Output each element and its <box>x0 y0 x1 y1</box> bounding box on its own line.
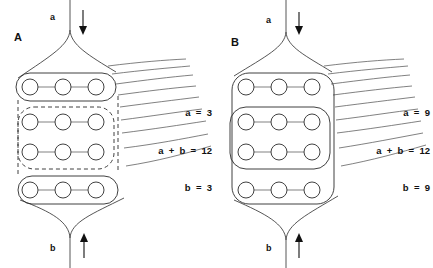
panel-b-row-connectors <box>246 87 312 190</box>
panel-b-up-arrow-icon <box>295 233 303 258</box>
panel-a-funnel-left <box>18 30 70 78</box>
figure-canvas: A a b a = 3 a + b = 12 b = 3 B a b a = 9… <box>0 0 433 268</box>
panel-a-bottom-label: b <box>50 243 56 253</box>
panel-a-row-connectors <box>30 87 96 190</box>
panel-b-bottom-right <box>286 196 338 240</box>
panel-a-top-label: a <box>50 12 55 22</box>
panel-a-up-arrow-icon <box>80 233 88 258</box>
panel-b-equation-2: a + b = 12 <box>348 145 430 158</box>
panel-b-equation-3: b = 9 <box>348 182 430 195</box>
panel-b-bottom-left <box>234 200 286 240</box>
panel-a-down-arrow-icon <box>79 10 87 35</box>
panel-b-down-arrow-icon <box>295 12 303 35</box>
panel-a-equations: a = 3 a + b = 12 b = 3 <box>132 82 212 220</box>
panel-a-letter: A <box>14 31 22 43</box>
panel-a-bottom-left <box>20 200 70 238</box>
panel-b-circles <box>238 79 320 198</box>
panel-b-letter: B <box>231 36 239 48</box>
panel-a-equation-3: b = 3 <box>132 182 212 195</box>
panel-b-bottom-label: b <box>266 243 272 253</box>
panel-b-equation-1: a = 9 <box>348 107 430 120</box>
panel-a-equation-1: a = 3 <box>132 107 212 120</box>
panel-b-funnel-left <box>234 32 286 76</box>
panel-a-equation-2: a + b = 12 <box>132 145 212 158</box>
panel-b-top-label: a <box>266 15 271 25</box>
panel-a-circles <box>22 79 104 198</box>
panel-b-equations: a = 9 a + b = 12 b = 9 <box>348 82 430 220</box>
